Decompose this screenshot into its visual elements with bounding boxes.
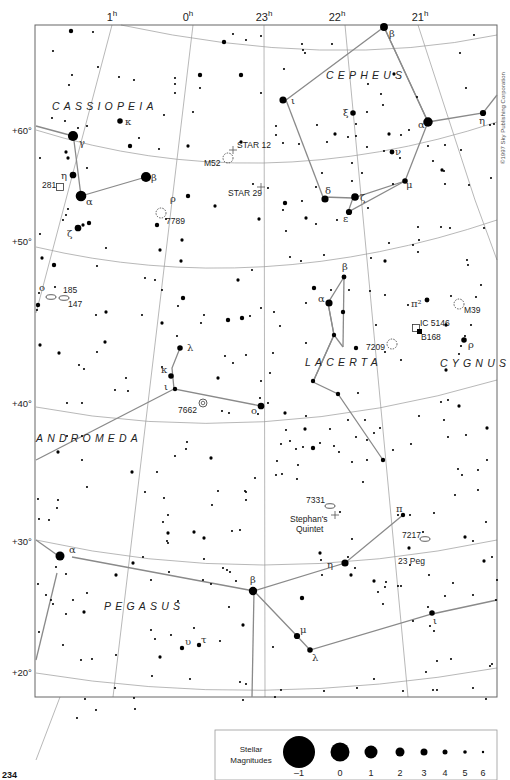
star: [87, 221, 91, 225]
star: [186, 144, 189, 147]
star: [81, 459, 83, 461]
star: [40, 256, 43, 259]
star: [450, 658, 452, 660]
ra-line: [36, 697, 60, 760]
cross-marker-icon: [331, 511, 339, 519]
legend-magnitude-label: 5: [462, 768, 467, 778]
star-designation: υ: [185, 636, 191, 647]
star: [239, 681, 241, 683]
star: [443, 419, 445, 421]
star: [301, 43, 303, 45]
star: [161, 289, 163, 291]
star: [333, 445, 335, 447]
star: [202, 579, 204, 581]
star: [354, 346, 358, 350]
star: [380, 93, 382, 95]
star: [257, 217, 260, 220]
nebula-icon: [57, 184, 64, 191]
star: [198, 73, 202, 77]
ra-line: [418, 25, 497, 260]
legend-title-line2: Magnitudes: [230, 756, 271, 765]
star: [470, 324, 472, 326]
star-designation: ο: [251, 405, 257, 416]
ra-line: [264, 25, 265, 697]
constellation-name: CASSIOPEIA: [52, 100, 158, 112]
star: [167, 542, 169, 544]
declination-label: +50°: [12, 236, 32, 247]
star: [54, 286, 56, 288]
star: [400, 134, 402, 136]
deep-sky-object: Quintet: [296, 524, 324, 534]
star: [65, 214, 67, 216]
star: [51, 117, 53, 119]
star: [319, 442, 321, 444]
dec-line: [121, 25, 497, 50]
star: [258, 403, 265, 410]
star: [301, 200, 303, 202]
star: [142, 556, 144, 558]
star: [285, 429, 287, 431]
star: [209, 456, 212, 459]
star: [427, 606, 429, 608]
star: [222, 40, 226, 44]
star: [465, 87, 467, 89]
planetary-nebula-inner-icon: [201, 401, 205, 405]
star: [125, 377, 127, 379]
star: [138, 137, 140, 139]
constellation-line: [254, 591, 497, 650]
star: [273, 311, 275, 313]
star: [379, 427, 381, 429]
star: [311, 379, 315, 383]
hour-label: 0h: [183, 9, 194, 23]
star: [408, 129, 410, 131]
deep-sky-object: 185: [46, 285, 77, 299]
constellation-line: [36, 573, 57, 660]
deep-sky-object: 147: [59, 296, 82, 309]
star: [458, 353, 460, 355]
star: [168, 571, 170, 573]
star: [384, 351, 386, 353]
star: [154, 638, 156, 640]
star: [260, 380, 262, 382]
star: [323, 690, 325, 692]
star: [267, 187, 269, 189]
constellation-name: LACERTA: [305, 356, 382, 368]
star: [459, 52, 461, 54]
star: [231, 530, 233, 532]
legend-box: [215, 730, 497, 780]
star: [239, 529, 241, 531]
star-designation: ξ: [343, 107, 349, 118]
star: [336, 392, 340, 396]
star: [105, 247, 107, 249]
star: [341, 310, 345, 314]
star: [45, 594, 47, 596]
star: [452, 582, 454, 584]
star-designation: γ: [79, 137, 85, 148]
star-designation: ο: [39, 282, 45, 293]
star: [37, 583, 39, 585]
star: [384, 294, 386, 296]
deep-sky-object: M52: [204, 153, 233, 168]
legend-magnitude-label: 2: [397, 768, 402, 778]
deep-sky-object: 23 Peg: [398, 556, 425, 566]
star: [228, 412, 230, 414]
star: [95, 709, 97, 711]
star: [163, 114, 165, 116]
star: [375, 324, 377, 326]
star: [457, 468, 459, 470]
star: [144, 491, 146, 493]
legend-magnitude-dot: [482, 751, 484, 753]
star: [283, 411, 286, 414]
star: [383, 150, 385, 152]
star: [357, 392, 359, 394]
legend-magnitude-label: 6: [480, 768, 485, 778]
star: [444, 323, 447, 326]
star: [341, 559, 348, 566]
star-designation: β: [389, 28, 395, 39]
star: [321, 195, 328, 202]
galaxy-icon: [46, 295, 56, 300]
star: [400, 359, 402, 361]
star: [351, 461, 353, 463]
object-label: 7217: [402, 530, 421, 540]
star: [173, 387, 177, 391]
